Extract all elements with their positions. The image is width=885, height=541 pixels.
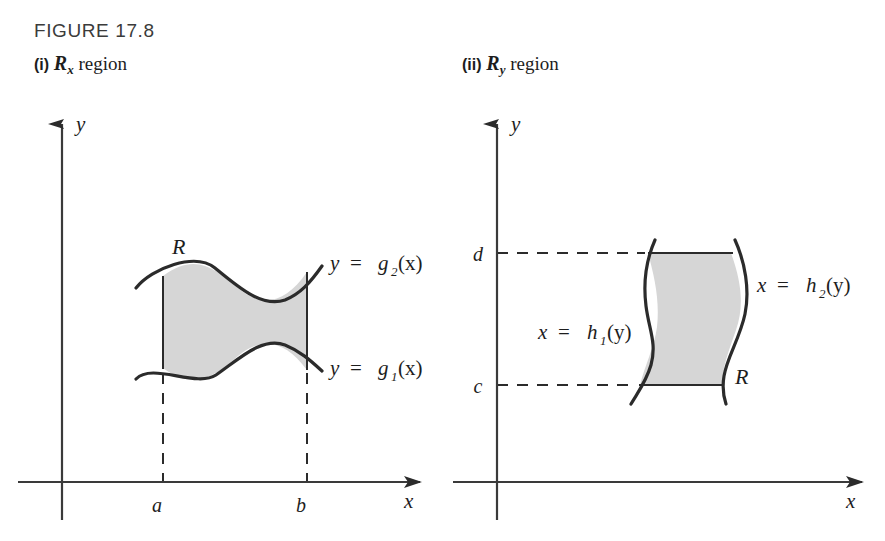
region-label-left: R: [171, 234, 186, 259]
upper-label-var: y: [328, 251, 340, 275]
upper-label-op: =: [350, 251, 362, 275]
left-curve-label-right: x = h 1 (y): [537, 320, 632, 348]
region-label-right: R: [734, 364, 749, 389]
lower-label-op: =: [350, 356, 362, 380]
upper-curve-label-left: y = g 2 (x): [328, 251, 423, 279]
lower-label-func: g: [378, 356, 389, 380]
right-curve-label-right: x = h 2 (y): [756, 273, 851, 301]
h2-label-func: h: [806, 273, 817, 297]
lower-label-sub: 1: [391, 369, 398, 384]
h2-label-sub: 2: [819, 286, 826, 301]
panel-right-plot: y x d c R x = h 1 (y) x = h 2 (y): [453, 112, 862, 520]
h1-label-arg: (y): [607, 320, 632, 344]
tick-label-d: d: [473, 243, 484, 265]
y-axis-label-left: y: [74, 112, 86, 136]
h1-label-op: =: [558, 320, 570, 344]
upper-label-func: g: [378, 251, 389, 275]
x-axis-label-left: x: [403, 489, 414, 513]
tick-label-b: b: [296, 494, 306, 516]
y-axis-label-right: y: [509, 112, 521, 136]
h2-label-arg: (y): [826, 273, 851, 297]
upper-label-sub: 2: [391, 264, 398, 279]
panel-left-plot: y x a b R y = g 2 (x) y = g 1 (x): [18, 112, 423, 520]
tick-label-c: c: [474, 375, 483, 397]
h2-label-op: =: [777, 273, 789, 297]
h2-label-var: x: [756, 273, 767, 297]
figure-container: FIGURE 17.8 (i) Rx region (ii) Ry region: [0, 0, 885, 541]
tick-label-a: a: [152, 494, 162, 516]
lower-label-var: y: [328, 356, 340, 380]
figure-canvas: y x a b R y = g 2 (x) y = g 1 (x): [0, 0, 885, 541]
h1-label-var: x: [537, 320, 548, 344]
lower-label-arg: (x): [398, 356, 423, 380]
x-axis-label-right: x: [845, 489, 856, 513]
lower-curve-label-left: y = g 1 (x): [328, 356, 423, 384]
upper-label-arg: (x): [398, 251, 423, 275]
h1-label-sub: 1: [600, 333, 607, 348]
h1-label-func: h: [587, 320, 598, 344]
